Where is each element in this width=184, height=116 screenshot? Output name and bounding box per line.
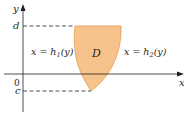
- c-level-label: c: [15, 85, 21, 96]
- left-curve-label-suffix: (y): [61, 46, 74, 57]
- left-curve-label-prefix: x = h: [31, 46, 56, 57]
- x-axis-arrow-icon: [177, 72, 184, 77]
- y-axis-label: y: [12, 3, 19, 14]
- y-axis-arrow-icon: [21, 4, 26, 11]
- right-curve-label-suffix: (y): [154, 46, 167, 57]
- right-curve-label: x = h2(y): [124, 46, 167, 59]
- d-level-label: d: [13, 20, 19, 31]
- right-curve-label-prefix: x = h: [124, 46, 149, 57]
- left-curve-label: x = h1(y): [31, 46, 74, 59]
- x-axis-label: x: [179, 77, 184, 88]
- region-d-label: D: [91, 47, 101, 60]
- region-diagram: y x 0 d c D x = h1(y) x = h2(y): [0, 0, 184, 116]
